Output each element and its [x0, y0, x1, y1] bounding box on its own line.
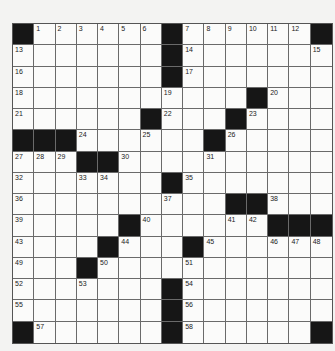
grid-cell[interactable]: [77, 45, 98, 66]
grid-cell[interactable]: [204, 258, 225, 279]
grid-cell[interactable]: [141, 88, 162, 109]
grid-cell[interactable]: [162, 237, 183, 258]
grid-cell[interactable]: [141, 194, 162, 215]
grid-cell[interactable]: [204, 194, 225, 215]
grid-cell[interactable]: [247, 67, 268, 88]
grid-cell[interactable]: [141, 279, 162, 300]
grid-cell[interactable]: [311, 67, 332, 88]
grid-cell[interactable]: [141, 322, 162, 343]
grid-cell[interactable]: [34, 67, 55, 88]
grid-cell[interactable]: [268, 279, 289, 300]
grid-cell[interactable]: [162, 215, 183, 236]
grid-cell[interactable]: [56, 322, 77, 343]
grid-cell[interactable]: [247, 130, 268, 151]
grid-cell[interactable]: [204, 173, 225, 194]
grid-cell[interactable]: 35: [183, 173, 204, 194]
grid-cell[interactable]: [247, 279, 268, 300]
grid-cell[interactable]: 3: [77, 24, 98, 45]
grid-cell[interactable]: 31: [204, 152, 225, 173]
grid-cell[interactable]: [34, 279, 55, 300]
grid-cell[interactable]: [56, 300, 77, 321]
grid-cell[interactable]: [183, 194, 204, 215]
grid-cell[interactable]: [56, 194, 77, 215]
grid-cell[interactable]: [162, 152, 183, 173]
grid-cell[interactable]: 1: [34, 24, 55, 45]
grid-cell[interactable]: [289, 152, 310, 173]
grid-cell[interactable]: [183, 215, 204, 236]
grid-cell[interactable]: [226, 300, 247, 321]
grid-cell[interactable]: [268, 109, 289, 130]
grid-cell[interactable]: [311, 109, 332, 130]
grid-cell[interactable]: 46: [268, 237, 289, 258]
grid-cell[interactable]: [77, 215, 98, 236]
grid-cell[interactable]: 48: [311, 237, 332, 258]
grid-cell[interactable]: 50: [98, 258, 119, 279]
grid-cell[interactable]: [56, 258, 77, 279]
grid-cell[interactable]: [34, 88, 55, 109]
grid-cell[interactable]: [34, 45, 55, 66]
grid-cell[interactable]: [311, 152, 332, 173]
grid-cell[interactable]: [77, 109, 98, 130]
grid-cell[interactable]: [268, 300, 289, 321]
grid-cell[interactable]: [56, 67, 77, 88]
grid-cell[interactable]: [141, 258, 162, 279]
grid-cell[interactable]: [77, 194, 98, 215]
grid-cell[interactable]: 24: [77, 130, 98, 151]
grid-cell[interactable]: [289, 130, 310, 151]
grid-cell[interactable]: [141, 300, 162, 321]
grid-cell[interactable]: [98, 130, 119, 151]
grid-cell[interactable]: 27: [13, 152, 34, 173]
grid-cell[interactable]: [141, 152, 162, 173]
grid-cell[interactable]: [247, 45, 268, 66]
grid-cell[interactable]: 43: [13, 237, 34, 258]
grid-cell[interactable]: [204, 67, 225, 88]
grid-cell[interactable]: [204, 45, 225, 66]
grid-cell[interactable]: [162, 258, 183, 279]
grid-cell[interactable]: [119, 173, 140, 194]
grid-cell[interactable]: [289, 45, 310, 66]
grid-cell[interactable]: 11: [268, 24, 289, 45]
grid-cell[interactable]: [311, 300, 332, 321]
grid-cell[interactable]: 49: [13, 258, 34, 279]
grid-cell[interactable]: 28: [34, 152, 55, 173]
grid-cell[interactable]: 19: [162, 88, 183, 109]
grid-cell[interactable]: 47: [289, 237, 310, 258]
grid-cell[interactable]: 33: [77, 173, 98, 194]
grid-cell[interactable]: [311, 258, 332, 279]
grid-cell[interactable]: [311, 279, 332, 300]
grid-cell[interactable]: [268, 67, 289, 88]
grid-cell[interactable]: [268, 152, 289, 173]
grid-cell[interactable]: [141, 173, 162, 194]
grid-cell[interactable]: [56, 279, 77, 300]
grid-cell[interactable]: [247, 237, 268, 258]
grid-cell[interactable]: [56, 45, 77, 66]
grid-cell[interactable]: [289, 258, 310, 279]
grid-cell[interactable]: [226, 258, 247, 279]
grid-cell[interactable]: [56, 215, 77, 236]
grid-cell[interactable]: [141, 237, 162, 258]
grid-cell[interactable]: 6: [141, 24, 162, 45]
grid-cell[interactable]: 16: [13, 67, 34, 88]
grid-cell[interactable]: [98, 67, 119, 88]
grid-cell[interactable]: [119, 130, 140, 151]
grid-cell[interactable]: [226, 152, 247, 173]
grid-cell[interactable]: [162, 130, 183, 151]
grid-cell[interactable]: [311, 88, 332, 109]
grid-cell[interactable]: [289, 109, 310, 130]
grid-cell[interactable]: [119, 258, 140, 279]
grid-cell[interactable]: 15: [311, 45, 332, 66]
grid-cell[interactable]: [289, 67, 310, 88]
grid-cell[interactable]: 20: [268, 88, 289, 109]
grid-cell[interactable]: 10: [247, 24, 268, 45]
grid-cell[interactable]: [226, 279, 247, 300]
grid-cell[interactable]: [77, 88, 98, 109]
grid-cell[interactable]: [183, 152, 204, 173]
grid-cell[interactable]: [226, 322, 247, 343]
grid-cell[interactable]: [204, 215, 225, 236]
grid-cell[interactable]: 29: [56, 152, 77, 173]
grid-cell[interactable]: 51: [183, 258, 204, 279]
grid-cell[interactable]: [98, 300, 119, 321]
grid-cell[interactable]: [56, 88, 77, 109]
grid-cell[interactable]: 37: [162, 194, 183, 215]
grid-cell[interactable]: [183, 88, 204, 109]
